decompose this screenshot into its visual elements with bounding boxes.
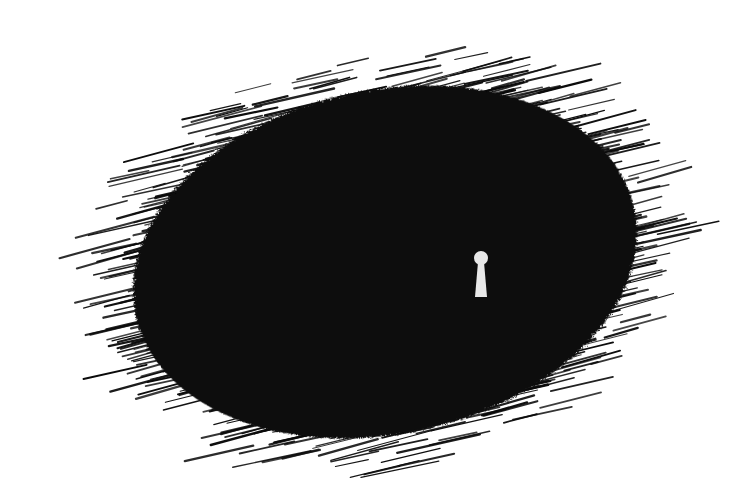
hatched-blob-illustration — [0, 0, 745, 501]
illustration-canvas — [0, 0, 745, 501]
blob-core — [100, 41, 670, 484]
